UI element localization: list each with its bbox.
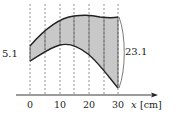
tick-label-20: 20: [83, 99, 95, 110]
axis-variable: x: [131, 99, 137, 110]
axis-unit: [cm]: [140, 99, 162, 110]
height-brace: [119, 17, 124, 88]
left-height-label: 5.1: [2, 48, 18, 59]
tick-label-0: 0: [27, 99, 33, 110]
right-height-label: 23.1: [125, 46, 147, 57]
tick-label-10: 10: [54, 99, 66, 110]
region-diagram: 5.1 23.1 0 10 20 30 x [cm]: [0, 0, 176, 117]
tick-label-30: 30: [112, 99, 124, 110]
